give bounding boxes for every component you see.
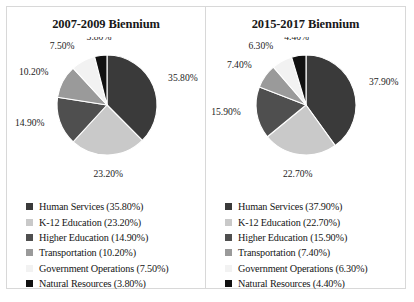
legend-swatch-icon: [225, 219, 232, 226]
legend-item-label: Government Operations (6.30%): [238, 263, 367, 274]
legend-item[interactable]: Natural Resources (4.40%): [225, 276, 405, 291]
legend-item-label: Government Operations (7.50%): [39, 263, 168, 274]
legend-swatch-icon: [26, 219, 33, 226]
pie-slice-value-label: 7.50%: [50, 40, 75, 51]
legend-item[interactable]: Higher Education (14.90%): [26, 230, 206, 245]
legend-item[interactable]: Government Operations (6.30%): [225, 261, 405, 276]
legend-swatch-icon: [26, 203, 33, 210]
pie-slice-value-label: 4.40%: [284, 37, 309, 42]
legend-swatch-icon: [225, 265, 232, 272]
pie-slice-value-label: 14.90%: [15, 117, 45, 128]
pie-svg-left: 35.80%23.20%14.90%10.20%7.50%3.80%: [7, 37, 207, 177]
pie-slice-value-label: 6.30%: [248, 40, 273, 51]
pie-svg-right: 37.90%22.70%15.90%7.40%6.30%4.40%: [206, 37, 406, 177]
pie-slice-value-label: 10.20%: [19, 66, 49, 77]
legend-right: Human Services (37.90%)K-12 Education (2…: [225, 199, 405, 291]
pie-slice-value-label: 35.80%: [168, 72, 198, 83]
legend-item-label: Natural Resources (3.80%): [39, 278, 146, 289]
legend-swatch-icon: [26, 234, 33, 241]
legend-swatch-icon: [225, 280, 232, 287]
legend-item[interactable]: Government Operations (7.50%): [26, 261, 206, 276]
legend-item-label: Human Services (37.90%): [238, 201, 342, 212]
chart-panel-2007-2009: 2007-2009 Biennium 35.80%23.20%14.90%10.…: [7, 7, 206, 288]
pie-slice-value-label: 15.90%: [211, 106, 241, 117]
legend-item-label: Transportation (7.40%): [238, 247, 330, 258]
legend-item-label: Higher Education (15.90%): [238, 232, 347, 243]
pie-slice-value-label: 22.70%: [283, 168, 313, 178]
chart-panel-2015-2017: 2015-2017 Biennium 37.90%22.70%15.90%7.4…: [206, 7, 405, 288]
legend-item-label: K-12 Education (23.20%): [39, 217, 141, 228]
pie-chart-right: 37.90%22.70%15.90%7.40%6.30%4.40%: [206, 37, 405, 177]
legend-item[interactable]: K-12 Education (22.70%): [225, 214, 405, 229]
legend-swatch-icon: [26, 265, 33, 272]
legend-item[interactable]: Transportation (10.20%): [26, 245, 206, 260]
pie-chart-left: 35.80%23.20%14.90%10.20%7.50%3.80%: [7, 37, 205, 177]
legend-swatch-icon: [26, 280, 33, 287]
pie-chart-figure: 2007-2009 Biennium 35.80%23.20%14.90%10.…: [6, 6, 406, 289]
pie-slice-value-label: 23.20%: [94, 168, 124, 177]
legend-item-label: Transportation (10.20%): [39, 247, 136, 258]
pie-slice-value-label: 37.90%: [369, 76, 399, 87]
legend-swatch-icon: [225, 249, 232, 256]
legend-item[interactable]: Higher Education (15.90%): [225, 230, 405, 245]
legend-item[interactable]: Natural Resources (3.80%): [26, 276, 206, 291]
legend-item[interactable]: K-12 Education (23.20%): [26, 214, 206, 229]
legend-item-label: Higher Education (14.90%): [39, 232, 148, 243]
pie-slice-value-label: 3.80%: [87, 37, 112, 42]
legend-item[interactable]: Transportation (7.40%): [225, 245, 405, 260]
legend-swatch-icon: [26, 249, 33, 256]
legend-item[interactable]: Human Services (37.90%): [225, 199, 405, 214]
legend-swatch-icon: [225, 234, 232, 241]
legend-item[interactable]: Human Services (35.80%): [26, 199, 206, 214]
legend-item-label: K-12 Education (22.70%): [238, 217, 340, 228]
legend-swatch-icon: [225, 203, 232, 210]
legend-item-label: Natural Resources (4.40%): [238, 278, 345, 289]
page-title-left: 2007-2009 Biennium: [7, 17, 205, 32]
legend-left: Human Services (35.80%)K-12 Education (2…: [26, 199, 206, 291]
page-title-right: 2015-2017 Biennium: [206, 17, 405, 32]
legend-item-label: Human Services (35.80%): [39, 201, 143, 212]
pie-slice-value-label: 7.40%: [227, 59, 252, 70]
